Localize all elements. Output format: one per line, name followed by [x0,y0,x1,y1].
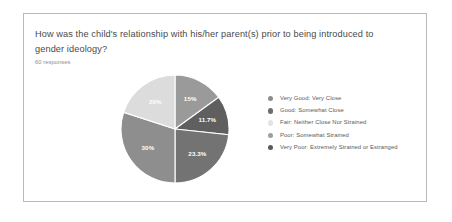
legend-swatch-icon [268,145,273,150]
legend-item-label: Poor: Somewhat Strained [280,131,420,139]
legend-swatch-icon [268,120,273,125]
pie-slice-group [121,75,229,183]
legend-item[interactable]: Very Good: Very Close [268,94,420,106]
pie-slice-value-label: 15% [184,95,197,102]
chart-legend: Very Good: Very CloseGood: Somewhat Clos… [268,94,420,155]
pie-slice-value-label: 30% [142,144,155,151]
legend-item[interactable]: Very Poor: Extremely Strained or Estrang… [268,143,420,155]
legend-item-label: Very Poor: Extremely Strained or Estrang… [280,143,420,151]
pie-slice-value-label: 20% [149,98,162,105]
response-count-label: 60 responses [35,58,70,66]
chart-area: 15%11.7%23.3%30%20% Very Good: Very Clos… [24,70,428,202]
legend-swatch-icon [268,96,273,101]
legend-item[interactable]: Poor: Somewhat Strained [268,131,420,143]
question-title: How was the child's relationship with hi… [35,27,405,56]
page-root: How was the child's relationship with hi… [0,0,452,222]
legend-swatch-icon [268,133,273,138]
legend-item-label: Very Good: Very Close [280,94,420,102]
legend-item-label: Good: Somewhat Close [280,106,420,114]
pie-slice-value-label: 11.7% [198,116,216,123]
form-response-card: How was the child's relationship with hi… [23,13,427,202]
legend-item-label: Fair: Neither Close Nor Strained [280,118,420,126]
legend-item[interactable]: Fair: Neither Close Nor Strained [268,118,420,130]
pie-chart: 15%11.7%23.3%30%20% [120,74,230,184]
legend-item[interactable]: Good: Somewhat Close [268,106,420,118]
legend-swatch-icon [268,108,273,113]
pie-chart-svg: 15%11.7%23.3%30%20% [120,74,230,184]
pie-slice-value-label: 23.3% [188,150,206,157]
